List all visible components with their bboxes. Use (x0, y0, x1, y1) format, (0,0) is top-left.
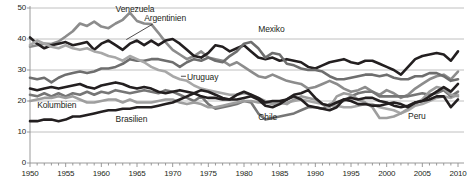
series-label-argentinien: Argentinien (144, 13, 186, 23)
data-series-lines (30, 13, 458, 122)
series-label-kolumbien: Kolumbien (37, 100, 76, 110)
series-label-mexiko: Mexiko (258, 24, 284, 34)
argentinien-leader (126, 24, 152, 39)
series-label-peru: Peru (408, 111, 426, 121)
axis-lines (30, 6, 464, 163)
series-label-uruguay: Uruguay (187, 72, 218, 82)
series-label-brasilien: Brasilien (116, 114, 148, 124)
series-label-chile: Chile (258, 112, 277, 122)
series-line-venezuela (30, 13, 458, 98)
